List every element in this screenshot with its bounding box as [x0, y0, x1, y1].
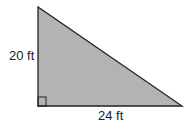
right-triangle [38, 7, 182, 106]
base-label: 24 ft [98, 108, 123, 123]
height-label: 20 ft [9, 48, 34, 63]
triangle-figure [0, 0, 192, 127]
